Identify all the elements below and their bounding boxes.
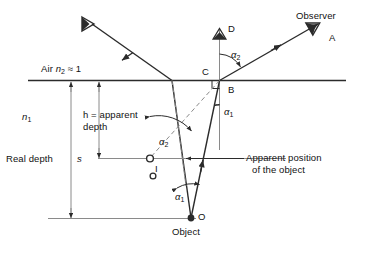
object-caption: Object	[172, 226, 200, 237]
refraction-apparent-depth-figure: Air n2 ≈ 1 n1 h = apparent depth Real de…	[0, 0, 368, 254]
refracted-ray-direction-arrow	[271, 45, 281, 51]
object-point-marker	[188, 215, 195, 222]
apparent-depth-label-line2: depth	[83, 121, 107, 132]
angle-arc-alpha1-at-object	[177, 184, 200, 188]
angle-label-alpha1-at-b: α1	[224, 106, 234, 119]
point-label-c: C	[202, 66, 209, 77]
observer-label: Observer	[296, 10, 336, 21]
angle-label-alpha2-at-b: α2	[231, 49, 241, 62]
real-depth-label: Real depth	[6, 153, 53, 164]
image-point-marker	[147, 155, 154, 162]
incident-ray-direction-arrow	[201, 160, 203, 172]
angle-arc-alpha2-at-image	[150, 116, 192, 131]
lower-medium-index-label: n1	[22, 111, 31, 124]
refracted-ray-left-direction-arrow	[122, 53, 133, 61]
diagram-canvas	[0, 0, 368, 254]
upper-index-relation: ≈ 1	[68, 63, 81, 74]
refracted-ray-left-to-eye	[92, 24, 172, 81]
real-depth-symbol: s	[77, 153, 82, 164]
angle-label-alpha2-at-image: α2	[159, 136, 169, 149]
point-label-i: I	[155, 163, 158, 174]
point-label-a: A	[329, 32, 335, 43]
angle-label-alpha1-at-object: α1	[175, 191, 185, 204]
point-label-b: B	[228, 84, 234, 95]
point-label-o: O	[198, 211, 206, 222]
upper-index-subscript: 2	[61, 68, 65, 75]
apparent-position-annotation-line2: of the object	[252, 164, 305, 175]
point-label-d: D	[228, 23, 235, 34]
air-medium-label: Air n2 ≈ 1	[41, 63, 81, 76]
apparent-position-annotation-line1: Apparent position	[246, 152, 322, 163]
eye-icon-top	[213, 28, 226, 39]
virtual-ray-extension-left	[172, 81, 186, 187]
incident-ray-object-to-b	[191, 81, 220, 219]
apparent-depth-label-line1: h = apparent	[83, 109, 138, 120]
